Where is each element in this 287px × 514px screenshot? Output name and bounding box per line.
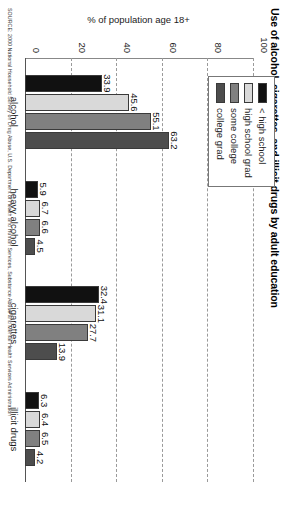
bar-illicit-drugs-high-school-grad[interactable]: 6.4 [25,411,40,428]
legend: < high schoolhigh school gradsome colleg… [208,76,275,187]
bar-value-label: 55.1 [151,112,162,131]
bar-value-label: 6.4 [40,413,51,426]
bar-cigarettes-college-grad[interactable]: 13.9 [25,343,57,360]
legend-label: some college [229,108,240,164]
y-tick-label-80: 80 [213,42,224,53]
bar-value-label: 13.9 [57,343,68,362]
bar-value-label: 4.2 [35,451,46,464]
bar-group-cigarettes: 32.431.127.713.9cigarettes [25,271,253,377]
legend-label: high school grad [243,108,254,178]
bar-value-label: 27.7 [88,324,99,343]
bar-value-label: 33.9 [102,74,113,93]
bar-illicit-drugs-some-college[interactable]: 6.5 [25,430,40,447]
bar-value-label: 6.7 [40,202,51,215]
y-tick-label-60: 60 [167,42,178,53]
bar-cigarettes-some-college[interactable]: 27.7 [25,324,88,341]
legend-item-college-grad[interactable]: college grad [215,83,226,178]
y-tick-label-100: 100 [259,37,270,53]
y-tick-label-0: 0 [31,48,42,53]
bar-alcohol--high-school[interactable]: 33.9 [25,75,102,92]
legend-swatch [258,83,267,103]
bar-value-label: 63.2 [169,131,180,150]
bar-heavy-alcohol--high-school[interactable]: 5.9 [25,181,38,198]
bar-value-label: 5.9 [38,183,49,196]
y-axis-title: % of population age 18+ [25,12,253,26]
y-tick-label-20: 20 [76,42,87,53]
chart-figure: Use of alcohol, cigarettes, and illicit … [0,0,287,514]
bar-value-label: 32.4 [99,286,110,305]
legend-swatch [230,83,239,103]
bar-illicit-drugs-college-grad[interactable]: 4.2 [25,449,35,466]
bar-value-label: 4.5 [35,240,46,253]
bar-value-label: 6.6 [40,221,51,234]
source-note: SOURCE: 2000 National Household Survey o… [7,8,13,416]
bar-heavy-alcohol-college-grad[interactable]: 4.5 [25,238,35,255]
bar-value-label: 45.6 [129,93,140,112]
bar-value-label: 6.3 [39,394,50,407]
bar-cigarettes--high-school[interactable]: 32.4 [25,286,99,303]
rotated-figure-wrapper: Use of alcohol, cigarettes, and illicit … [0,0,287,514]
bar-alcohol-some-college[interactable]: 55.1 [25,113,151,130]
y-tick-label-40: 40 [122,42,133,53]
bar-group-illicit-drugs: 6.36.46.54.2illicit drugs [25,376,253,482]
legend-item-high-school-grad[interactable]: high school grad [243,83,254,178]
bar-value-label: 31.1 [96,305,107,324]
bar-cigarettes-high-school-grad[interactable]: 31.1 [25,305,96,322]
legend-label: < high school [257,108,268,164]
legend-swatch [216,83,225,103]
legend-swatch [244,83,253,103]
legend-item--high-school[interactable]: < high school [257,83,268,178]
legend-label: college grad [215,108,226,160]
bar-value-label: 6.5 [40,432,51,445]
bar-heavy-alcohol-high-school-grad[interactable]: 6.7 [25,200,40,217]
bar-alcohol-high-school-grad[interactable]: 45.6 [25,94,129,111]
bar-illicit-drugs--high-school[interactable]: 6.3 [25,392,39,409]
y-axis-title-text: % of population age 18+ [88,14,191,25]
legend-item-some-college[interactable]: some college [229,83,240,178]
bar-alcohol-college-grad[interactable]: 63.2 [25,132,169,149]
bar-heavy-alcohol-some-college[interactable]: 6.6 [25,219,40,236]
